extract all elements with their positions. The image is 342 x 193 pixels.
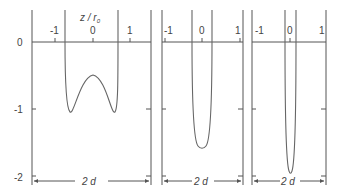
x-tick-minus1: -1 <box>50 25 59 36</box>
panel-1: -1 0 1 z / r0 2 d <box>32 10 151 187</box>
y-tick-minus1: -1 <box>14 104 23 115</box>
x-tick-0: 0 <box>199 25 205 36</box>
x-tick-0: 0 <box>90 25 96 36</box>
width-label-3: 2 d <box>280 176 295 187</box>
y-tick-0: 0 <box>17 37 23 48</box>
x-tick-1: 1 <box>319 25 325 36</box>
x-tick-1: 1 <box>127 25 133 36</box>
y-tick-minus2: -2 <box>14 172 23 183</box>
x-axis-label: z / r0 <box>79 12 101 24</box>
x-tick-0: 0 <box>287 25 293 36</box>
panel-3: -1 0 1 2 d <box>252 10 326 187</box>
x-tick-minus1: -1 <box>255 25 264 36</box>
width-label-2: 2 d <box>193 176 208 187</box>
panel-2: -1 0 1 2 d <box>162 10 243 187</box>
x-tick-1: 1 <box>235 25 241 36</box>
x-tick-minus1: -1 <box>164 25 173 36</box>
width-label-1: 2 d <box>81 176 96 187</box>
chart-figure: 0 -1 -2 -1 0 1 z / r0 2 d <box>0 0 342 193</box>
